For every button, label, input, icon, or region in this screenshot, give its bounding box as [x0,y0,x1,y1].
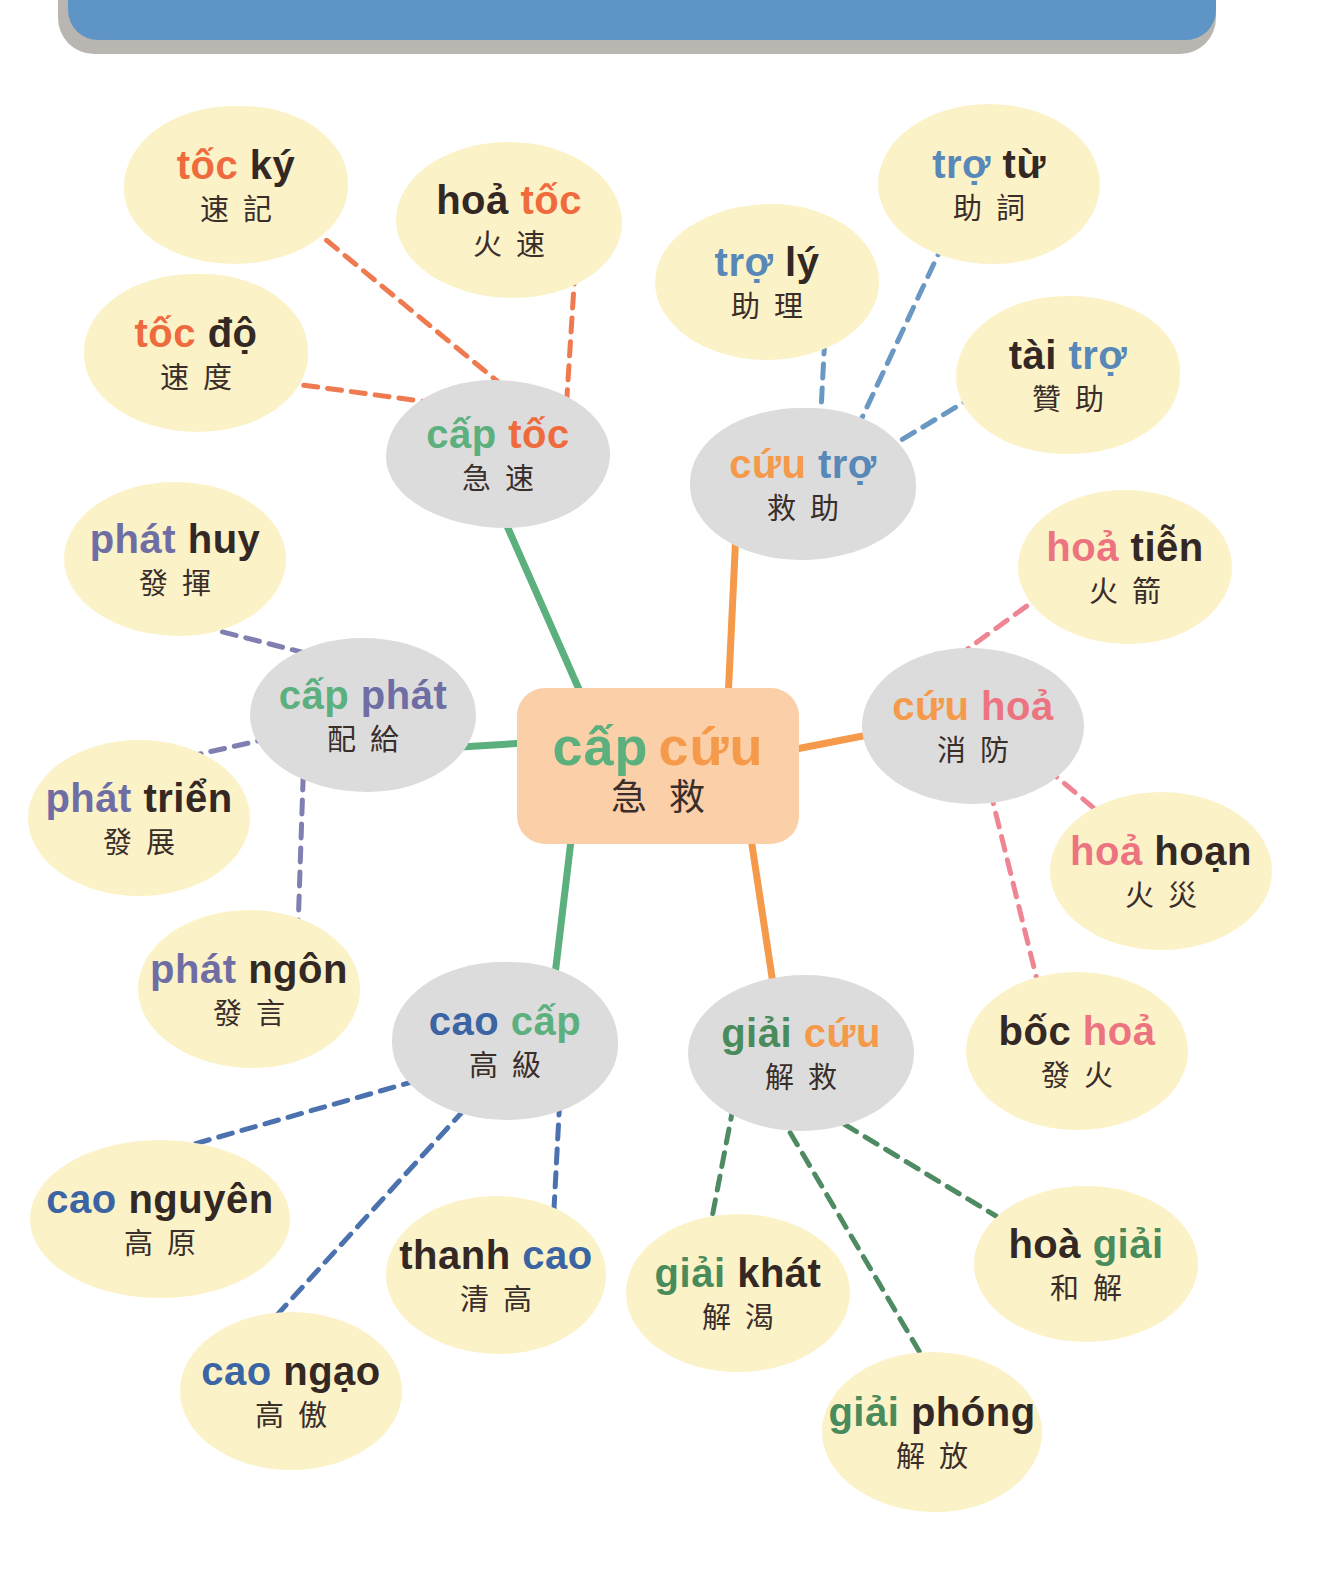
leaf-node-giai-khat: giải khát 解渴 [626,1214,850,1372]
hub-hanzi: 消防 [923,733,1023,769]
hub-word1: cứu [729,442,806,486]
leaf-word2: tốc [520,178,582,222]
leaf-word2: hoạn [1154,829,1252,873]
hub-word1: cấp [426,412,496,456]
link-giai-cuu-hoa-giai [824,1112,996,1216]
leaf-hanzi: 助詞 [939,191,1039,227]
leaf-word1: cao [201,1349,271,1393]
leaf-word1: trợ [715,240,774,284]
leaf-word1: hoà [1008,1222,1081,1266]
center-word2: cứu [658,716,763,776]
leaf-node-cao-ngao: cao ngạo 高傲 [180,1312,402,1470]
leaf-word1: giải [828,1390,899,1434]
hub-word1: cấp [279,673,349,717]
hub-word1: giải [721,1011,792,1055]
leaf-hanzi: 火速 [459,227,559,263]
hub-hanzi: 高級 [455,1048,555,1084]
hub-hanzi: 配給 [313,722,413,758]
hub-node-cap-phat: cấp phát 配給 [250,638,476,792]
hub-word2: hoả [981,684,1054,728]
leaf-node-tro-tu: trợ từ 助詞 [878,104,1100,264]
link-center-cap-toc [500,510,585,703]
leaf-word2: nguyên [128,1177,273,1221]
center-word1: cấp [552,716,648,776]
leaf-word2: ký [250,143,296,187]
leaf-hanzi: 清高 [446,1282,546,1318]
leaf-word1: phát [45,776,131,820]
leaf-word1: tốc [177,143,239,187]
leaf-word2: ngạo [283,1349,381,1393]
center-word: cấpcứu [552,716,763,776]
leaf-hanzi: 解渴 [688,1300,788,1336]
leaf-hanzi: 助理 [717,289,817,325]
leaf-node-hoa-toc: hoả tốc 火速 [396,142,622,298]
hub-hanzi: 救助 [753,491,853,527]
leaf-hanzi: 發揮 [125,566,225,602]
hub-node-cuu-hoa: cứu hoả 消防 [862,648,1084,804]
leaf-node-tai-tro: tài trợ 贊助 [956,296,1180,454]
leaf-word1: phát [150,947,236,991]
leaf-node-toc-do: tốc độ 速度 [84,274,308,432]
hub-word2: cấp [511,999,581,1043]
leaf-hanzi: 和解 [1036,1271,1136,1307]
leaf-word1: tài [1009,333,1057,377]
leaf-node-phat-ngon: phát ngôn 發言 [138,910,360,1068]
hub-node-cap-toc: cấp tốc 急速 [386,380,610,528]
leaf-word2: lý [785,240,819,284]
leaf-word1: tốc [135,311,197,355]
leaf-word2: tiễn [1131,525,1204,569]
leaf-hanzi: 高原 [110,1226,210,1262]
leaf-word1: cao [46,1177,116,1221]
hub-word2: trợ [818,442,877,486]
leaf-hanzi: 火災 [1111,878,1211,914]
leaf-hanzi: 速度 [146,360,246,396]
leaf-word2: triển [143,776,232,820]
leaf-word2: từ [1003,142,1046,186]
leaf-node-hoa-hoan: hoả hoạn 火災 [1050,792,1272,950]
leaf-word1: phát [90,517,176,561]
leaf-word1: bốc [999,1009,1072,1053]
leaf-word2: độ [208,311,258,355]
leaf-word1: hoả [1046,525,1119,569]
link-cap-toc-hoa-toc [566,270,575,412]
center-node-cap-cuu: cấpcứu 急救 [517,688,799,844]
link-cuu-hoa-boc-hoa [990,790,1042,1000]
leaf-word2: khát [737,1251,821,1295]
leaf-node-thanh-cao: thanh cao 清高 [386,1196,606,1354]
leaf-node-phat-trien: phát triển 發展 [28,740,250,896]
leaf-node-boc-hoa: bốc hoả 發火 [966,972,1188,1130]
hub-word2: cứu [804,1011,881,1055]
leaf-node-cao-nguyen: cao nguyên 高原 [30,1140,290,1298]
leaf-word1: hoả [1070,829,1143,873]
leaf-node-phat-huy: phát huy 發揮 [64,482,286,636]
hub-hanzi: 解救 [751,1060,851,1096]
hub-node-giai-cuu: giải cứu 解救 [688,975,914,1131]
link-cap-toc-toc-do [280,382,428,402]
leaf-word2: phóng [911,1390,1036,1434]
leaf-word2: hoả [1083,1009,1156,1053]
leaf-hanzi: 速記 [186,192,286,228]
hub-word2: tốc [508,412,570,456]
leaf-hanzi: 解放 [882,1439,982,1475]
leaf-hanzi: 贊助 [1018,382,1118,418]
leaf-hanzi: 火箭 [1075,574,1175,610]
hub-node-cao-cap: cao cấp 高級 [392,962,618,1120]
leaf-word2: huy [188,517,261,561]
leaf-node-tro-ly: trợ lý 助理 [655,204,879,360]
leaf-word2: cao [522,1233,592,1277]
leaf-word1: trợ [932,142,991,186]
hub-hanzi: 急速 [448,461,548,497]
leaf-word1: hoả [436,178,509,222]
leaf-word1: thanh [399,1233,510,1277]
hub-node-cuu-tro: cứu trợ 救助 [690,408,916,560]
leaf-word1: giải [655,1251,726,1295]
leaf-word2: trợ [1068,333,1127,377]
leaf-node-giai-phong: giải phóng 解放 [822,1352,1042,1512]
title-banner [68,0,1216,40]
hub-word2: phát [361,673,447,717]
leaf-node-hoa-giai: hoà giải 和解 [974,1186,1198,1342]
leaf-word2: giải [1093,1222,1164,1266]
hub-word1: cứu [892,684,969,728]
leaf-word2: ngôn [248,947,348,991]
hub-word1: cao [429,999,499,1043]
